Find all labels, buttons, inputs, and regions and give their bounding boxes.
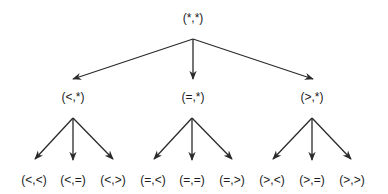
leaf-equal-less: (=,<) bbox=[140, 174, 165, 186]
root-node-label: (*,*) bbox=[183, 12, 204, 24]
leaf-greater-greater: (>,>) bbox=[339, 174, 364, 186]
comparison-tree-diagram: (*,*) (<,*) (=,*) (>,*) (<,<) (<,=) (<,>… bbox=[0, 0, 388, 194]
arrow-level1-to-leaf-0 bbox=[35, 118, 73, 159]
leaf-less-less: (<,<) bbox=[21, 174, 46, 186]
leaf-equal-equal: (=,=) bbox=[179, 174, 204, 186]
leaf-equal-greater: (=,>) bbox=[219, 174, 244, 186]
arrow-root-to-level1-0 bbox=[73, 39, 193, 79]
node-greater-any: (>,*) bbox=[300, 91, 323, 103]
leaf-less-equal: (<,=) bbox=[60, 174, 85, 186]
node-equal-any: (=,*) bbox=[181, 91, 204, 103]
node-less-any: (<,*) bbox=[61, 91, 84, 103]
arrow-level1-to-leaf-2 bbox=[73, 118, 113, 159]
leaf-greater-less: (>,<) bbox=[259, 174, 284, 186]
arrow-level1-to-leaf-3 bbox=[154, 118, 192, 159]
arrow-level1-to-leaf-6 bbox=[273, 118, 312, 159]
arrow-level1-to-leaf-5 bbox=[192, 118, 232, 159]
arrow-root-to-level1-2 bbox=[193, 39, 313, 79]
leaf-greater-equal: (>,=) bbox=[299, 174, 324, 186]
leaf-less-greater: (<,>) bbox=[100, 174, 125, 186]
arrow-level1-to-leaf-8 bbox=[312, 118, 351, 159]
